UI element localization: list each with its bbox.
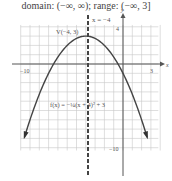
function-label: f(x) = −¼(x + 4)² + 3: [50, 101, 105, 109]
axis-of-symmetry-label: x = −4: [92, 16, 111, 24]
y-max-tick-label: 4: [116, 26, 119, 32]
y-min-tick-label: −10: [109, 146, 118, 152]
curve-left-arrow-icon: [24, 131, 29, 139]
parabola-graph: x = −4 V(−4, 3) f(x) = −¼(x + 4)² + 3 x …: [0, 0, 172, 181]
curve-right-arrow-icon: [143, 131, 148, 139]
y-axis-arrow-icon: [121, 13, 126, 18]
x-min-tick-label: −10: [20, 68, 29, 74]
x-axis-arrow-icon: [160, 62, 165, 67]
x-max-tick-label: 3: [150, 68, 153, 74]
y-axis-label: y: [120, 7, 124, 13]
vertex-label: V(−4, 3): [56, 28, 78, 36]
x-axis-label: x: [165, 62, 169, 68]
